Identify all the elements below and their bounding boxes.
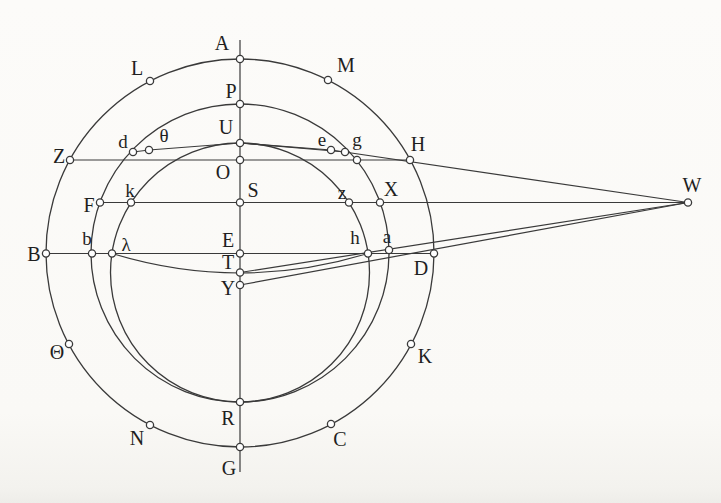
- point-marker-D: [430, 250, 437, 257]
- point-label-T: T: [222, 251, 234, 273]
- point-label-E: E: [222, 229, 234, 251]
- point-marker-Y: [236, 281, 243, 288]
- point-marker-P: [236, 100, 243, 107]
- point-label-C: C: [333, 428, 346, 450]
- point-label-e: e: [318, 129, 326, 150]
- point-label-O: O: [216, 161, 230, 183]
- point-marker-T: [236, 269, 243, 276]
- point-marker-H: [406, 156, 413, 163]
- point-marker-R: [236, 398, 243, 405]
- point-marker-g: [341, 148, 348, 155]
- point-label-S: S: [247, 179, 258, 201]
- point-label-k: k: [125, 180, 135, 201]
- point-label-L: L: [131, 57, 143, 79]
- point-marker-X: [376, 199, 383, 206]
- point-marker-N: [146, 421, 153, 428]
- point-label-X: X: [384, 178, 399, 200]
- point-label-W: W: [683, 174, 702, 196]
- point-marker-F: [96, 199, 103, 206]
- point-marker-d: [129, 148, 136, 155]
- point-label-U: U: [219, 116, 234, 138]
- point-marker-λ: [108, 250, 115, 257]
- point-marker-C: [327, 420, 334, 427]
- point-marker-A: [236, 55, 243, 62]
- point-marker-S: [236, 199, 243, 206]
- point-label-h: h: [350, 227, 360, 248]
- point-label-M: M: [337, 54, 355, 76]
- point-label-P: P: [225, 80, 236, 102]
- point-marker-b: [88, 250, 95, 257]
- point-label-g: g: [352, 129, 362, 150]
- point-label-R: R: [221, 407, 235, 429]
- point-marker-M: [324, 76, 331, 83]
- point-marker-L: [146, 77, 153, 84]
- point-label-N: N: [130, 427, 144, 449]
- line-T-W: [240, 203, 688, 273]
- geometric-diagram: ALMPUdθegZHOFkSzXWBbλEhaDTYΘKRNCG: [0, 0, 721, 503]
- point-label-H: H: [411, 133, 425, 155]
- point-marker-O: [236, 156, 243, 163]
- point-marker-z: [345, 199, 352, 206]
- point-marker-Z: [66, 156, 73, 163]
- point-label-θ: θ: [159, 125, 168, 146]
- point-label-λ: λ: [121, 234, 131, 255]
- point-label-Y: Y: [221, 277, 235, 299]
- point-label-A: A: [215, 32, 230, 54]
- line-Y-W: [240, 203, 688, 286]
- point-label-G: G: [222, 457, 236, 479]
- point-marker-W: [684, 199, 691, 206]
- point-marker-h: [364, 250, 371, 257]
- point-marker-G: [236, 443, 243, 450]
- point-marker-E: [236, 250, 243, 257]
- point-marker-e: [327, 146, 334, 153]
- point-label-a: a: [383, 226, 392, 247]
- point-label-b: b: [82, 228, 92, 249]
- point-label-z: z: [338, 182, 346, 203]
- crossing-middle-circle-ZH-right: [353, 156, 360, 163]
- point-label-F: F: [83, 194, 94, 216]
- point-label-Θ: Θ: [50, 341, 64, 363]
- point-label-K: K: [418, 345, 433, 367]
- point-label-Z: Z: [53, 145, 65, 167]
- point-marker-K: [407, 340, 414, 347]
- point-label-B: B: [27, 243, 40, 265]
- point-marker-U: [236, 139, 243, 146]
- point-marker-θ: [145, 146, 152, 153]
- point-marker-Θ: [65, 340, 72, 347]
- point-marker-a: [385, 246, 392, 253]
- point-marker-B: [42, 250, 49, 257]
- point-label-D: D: [414, 257, 428, 279]
- diagram-page: ALMPUdθegZHOFkSzXWBbλEhaDTYΘKRNCG: [0, 0, 721, 503]
- point-label-d: d: [118, 131, 128, 152]
